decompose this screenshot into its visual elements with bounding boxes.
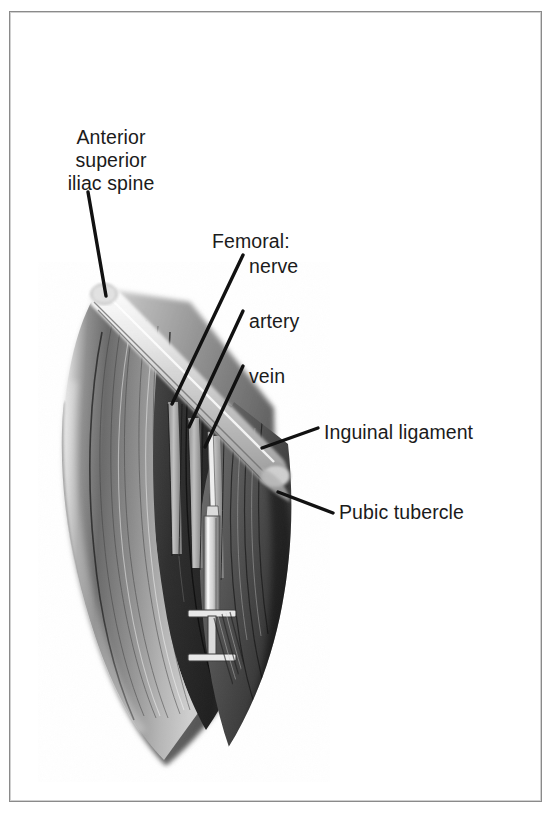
femoral-triangle-drawing — [38, 262, 330, 782]
label-femoral-group: Femoral: — [212, 230, 290, 253]
figure-root: Anterior superior iliac spine Femoral: n… — [0, 0, 551, 819]
label-anterior-superior-iliac-spine: Anterior superior iliac spine — [47, 126, 175, 195]
label-femoral-nerve: nerve — [249, 255, 298, 278]
label-pubic-tubercle: Pubic tubercle — [339, 501, 464, 524]
label-femoral-artery: artery — [249, 310, 299, 333]
label-femoral-vein: vein — [249, 365, 285, 388]
paper-grain — [38, 262, 330, 782]
label-inguinal-ligament: Inguinal ligament — [324, 421, 473, 444]
anatomy-illustration — [38, 262, 330, 782]
